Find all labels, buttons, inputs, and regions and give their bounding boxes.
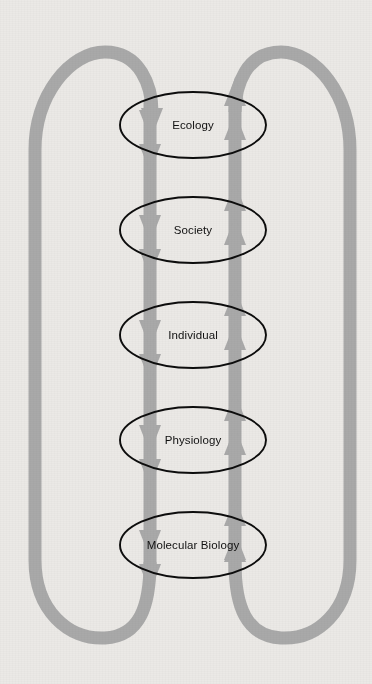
node-physiology[interactable]: Physiology <box>120 407 266 473</box>
node-ecology-label: Ecology <box>172 119 214 131</box>
node-molecular-biology-label: Molecular Biology <box>147 539 240 551</box>
node-society[interactable]: Society <box>120 197 266 263</box>
node-ecology[interactable]: Ecology <box>120 92 266 158</box>
node-society-label: Society <box>174 224 213 236</box>
node-individual-label: Individual <box>168 329 218 341</box>
node-physiology-label: Physiology <box>165 434 222 446</box>
node-molecular-biology[interactable]: Molecular Biology <box>120 512 266 578</box>
diagram-root: Ecology Society Individual Physiology Mo… <box>0 0 372 684</box>
node-individual[interactable]: Individual <box>120 302 266 368</box>
organization-levels-diagram: Ecology Society Individual Physiology Mo… <box>0 0 372 684</box>
